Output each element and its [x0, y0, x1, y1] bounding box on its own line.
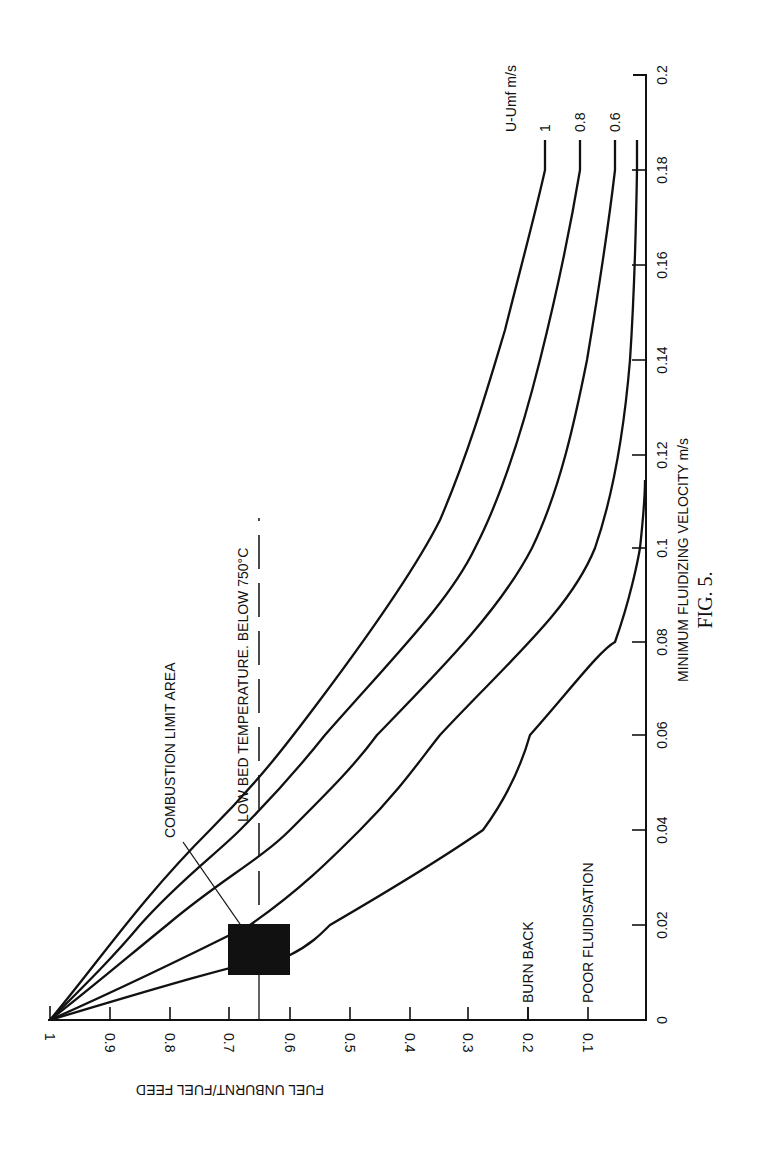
combustion-leader-line	[183, 842, 240, 924]
svg-text:0.7: 0.7	[221, 1033, 237, 1053]
figure-caption: FIG. 5.	[694, 571, 716, 628]
series-label-0.8: 0.8	[572, 112, 588, 132]
y-tick-labels: 1 0.9 0.8 0.7 0.6 0.5 0.4 0.3 0.2 0.1	[42, 1033, 596, 1053]
svg-text:0.04: 0.04	[654, 816, 670, 843]
burn-back-label: BURN BACK	[520, 921, 536, 1003]
svg-text:0.02: 0.02	[654, 911, 670, 938]
combustion-limit-area-box	[228, 924, 290, 975]
low-bed-temperature-label: LOW BED TEMPERATURE. BELOW 750°C	[235, 548, 251, 822]
svg-text:0: 0	[654, 1016, 670, 1024]
svg-text:0.1: 0.1	[654, 538, 670, 558]
series-label-0.6: 0.6	[607, 112, 623, 132]
svg-text:0.2: 0.2	[520, 1033, 536, 1053]
y-ticks	[50, 1006, 588, 1020]
svg-text:0.6: 0.6	[282, 1033, 298, 1053]
svg-text:0.2: 0.2	[654, 65, 670, 85]
curves	[50, 140, 645, 1020]
legend-title: U-Umf m/s	[503, 65, 519, 132]
svg-text:0.3: 0.3	[460, 1033, 476, 1053]
svg-text:1: 1	[42, 1033, 58, 1041]
svg-text:0.5: 0.5	[342, 1033, 358, 1053]
x-axis-title: MINIMUM FLUIDIZING VELOCITY m/s	[675, 438, 691, 682]
poor-fluidisation-label: POOR FLUIDISATION	[580, 862, 596, 1003]
y-axis-title: FUEL UNBURNT/FUEL FEED	[136, 1082, 324, 1098]
svg-text:0.06: 0.06	[654, 721, 670, 748]
svg-text:0.16: 0.16	[654, 251, 670, 278]
fuel-unburnt-chart: 1 0.9 0.8 0.7 0.6 0.5 0.4 0.3 0.2 0.1 0 …	[0, 0, 774, 1164]
axes	[48, 74, 647, 1021]
svg-text:0.08: 0.08	[654, 628, 670, 655]
svg-text:0.4: 0.4	[402, 1033, 418, 1053]
curve-0.8	[50, 140, 580, 1020]
series-label-1: 1	[537, 124, 553, 132]
curve-0.6	[50, 140, 615, 1020]
svg-text:0.12: 0.12	[654, 441, 670, 468]
svg-text:0.9: 0.9	[102, 1033, 118, 1053]
svg-text:0.8: 0.8	[162, 1033, 178, 1053]
combustion-limit-label: COMBUSTION LIMIT AREA	[162, 662, 178, 838]
svg-text:0.14: 0.14	[654, 346, 670, 373]
svg-text:0.18: 0.18	[654, 156, 670, 183]
svg-text:0.1: 0.1	[580, 1033, 596, 1053]
curve-unlabeled-4	[50, 140, 637, 1020]
x-tick-labels: 0 0.02 0.04 0.06 0.08 0.1 0.12 0.14 0.16…	[654, 65, 670, 1024]
curve-unlabeled-5	[50, 480, 645, 1020]
